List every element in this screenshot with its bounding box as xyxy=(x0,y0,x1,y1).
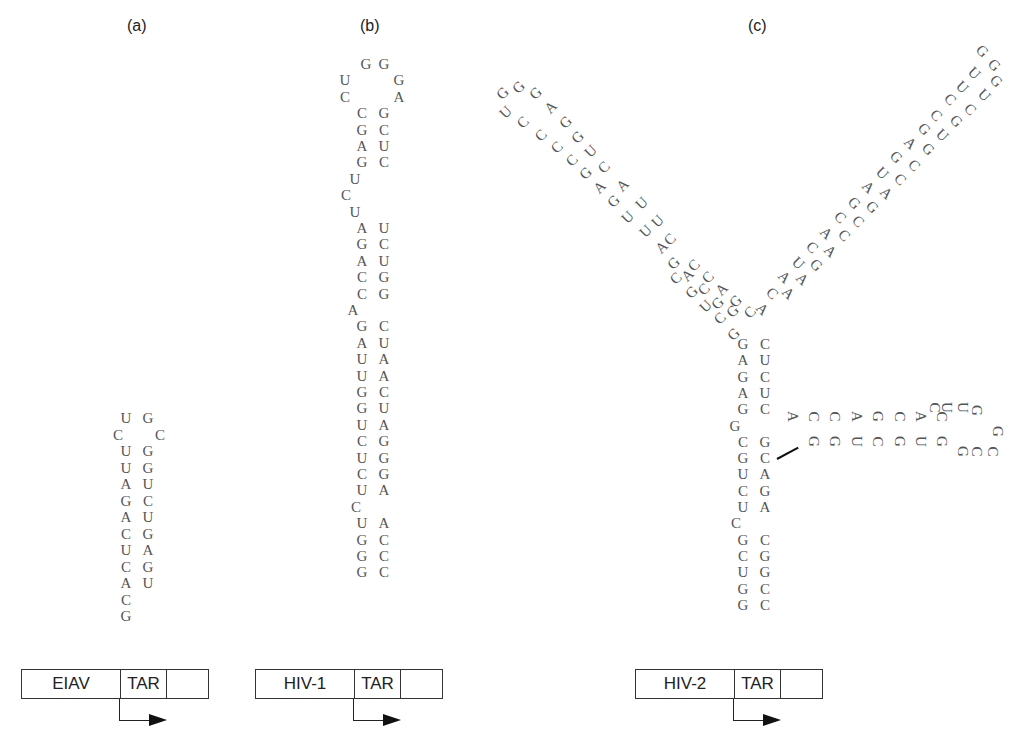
nucleotide: A xyxy=(759,467,771,482)
nucleotide: A xyxy=(356,254,368,269)
side-arm-nucleotide: G xyxy=(827,436,842,448)
gene-box-hiv-2: HIV-2TAR xyxy=(635,669,823,699)
nucleotide: C xyxy=(759,533,771,548)
left-arm-nucleotide: G xyxy=(604,192,623,211)
transcription-start-line xyxy=(733,699,734,721)
nucleotide: G xyxy=(356,123,368,138)
tar-label: TAR xyxy=(354,670,400,698)
side-arm-nucleotide: U xyxy=(849,436,864,448)
left-arm-nucleotide: C xyxy=(513,113,532,132)
right-arm-nucleotide: A xyxy=(876,184,895,203)
nucleotide: C xyxy=(120,593,132,608)
nucleotide: G xyxy=(142,411,154,426)
nucleotide: G xyxy=(142,461,154,476)
nucleotide: G xyxy=(356,533,368,548)
nucleotide: G xyxy=(759,484,771,499)
nucleotide: C xyxy=(356,434,368,449)
tar-label: TAR xyxy=(734,670,780,698)
nucleotide: G xyxy=(759,435,771,450)
nucleotide: G xyxy=(356,319,368,334)
transcription-arrow-shaft xyxy=(733,720,763,721)
panel-label-c: (c) xyxy=(748,17,767,35)
nucleotide: U xyxy=(120,411,132,426)
nucleotide: G xyxy=(759,549,771,564)
nucleotide: G xyxy=(356,401,368,416)
nucleotide: G xyxy=(759,565,771,580)
nucleotide: G xyxy=(378,270,390,285)
nucleotide: C xyxy=(120,527,132,542)
nucleotide: G xyxy=(393,73,405,88)
right-arm-nucleotide: C xyxy=(890,170,909,189)
nucleotide: C xyxy=(120,560,132,575)
downstream-segment xyxy=(400,670,442,698)
nucleotide: U xyxy=(759,386,771,401)
nucleotide: A xyxy=(378,369,390,384)
transcription-arrow-shaft xyxy=(353,720,383,721)
right-arm-nucleotide: C xyxy=(848,212,867,231)
nucleotide: A xyxy=(120,510,132,525)
nucleotide: C xyxy=(378,565,390,580)
side-arm-nucleotide: G xyxy=(955,446,970,458)
left-arm-nucleotide: A xyxy=(590,178,609,197)
side-arm-nucleotide: G xyxy=(892,436,907,448)
connector-line xyxy=(777,447,799,460)
nucleotide: G xyxy=(356,549,368,564)
left-arm-nucleotide: G xyxy=(526,84,545,103)
side-arm-nucleotide: G xyxy=(870,411,885,423)
nucleotide: A xyxy=(759,500,771,515)
nucleotide: U xyxy=(356,418,368,433)
nucleotide: A xyxy=(737,386,749,401)
side-arm-nucleotide: C xyxy=(870,436,885,448)
right-arm-nucleotide: C xyxy=(834,226,853,245)
side-arm-nucleotide: C xyxy=(985,446,1000,458)
nucleotide: A xyxy=(378,352,390,367)
nucleotide: U xyxy=(120,461,132,476)
transcription-arrow-head xyxy=(383,714,401,726)
nucleotide: G xyxy=(360,57,372,72)
nucleotide: U xyxy=(737,467,749,482)
transcription-arrow-shaft xyxy=(119,720,149,721)
nucleotide: G xyxy=(737,451,749,466)
side-arm-nucleotide: C xyxy=(827,411,842,423)
nucleotide: U xyxy=(378,336,390,351)
nucleotide: U xyxy=(378,254,390,269)
nucleotide: C xyxy=(737,435,749,450)
nucleotide: C xyxy=(759,582,771,597)
transcription-start-line xyxy=(353,699,354,721)
tar-label: TAR xyxy=(120,670,166,698)
nucleotide: C xyxy=(378,237,390,252)
nucleotide: A xyxy=(356,221,368,236)
nucleotide: G xyxy=(737,533,749,548)
left-arm-nucleotide: C xyxy=(594,158,613,177)
nucleotide: U xyxy=(142,477,154,492)
right-arm-nucleotide: A xyxy=(778,284,797,303)
side-arm-nucleotide: A xyxy=(785,411,800,423)
right-arm-nucleotide: G xyxy=(946,112,965,131)
nucleotide: C xyxy=(759,337,771,352)
left-arm-nucleotide: U xyxy=(632,194,651,213)
downstream-segment xyxy=(780,670,822,698)
right-arm-nucleotide: G xyxy=(886,148,905,167)
nucleotide: A xyxy=(378,516,390,531)
nucleotide: G xyxy=(356,155,368,170)
nucleotide: G xyxy=(729,419,741,434)
nucleotide: U xyxy=(737,565,749,580)
nucleotide: G xyxy=(356,237,368,252)
left-arm-nucleotide: U xyxy=(581,142,600,161)
right-arm-nucleotide: G xyxy=(984,56,1003,75)
gene-box-hiv-1: HIV-1TAR xyxy=(255,669,443,699)
left-arm-nucleotide: U xyxy=(618,208,637,227)
nucleotide: A xyxy=(378,418,390,433)
side-arm-nucleotide: A xyxy=(849,411,864,423)
nucleotide: U xyxy=(378,401,390,416)
right-arm-nucleotide: G xyxy=(844,194,863,213)
nucleotide: U xyxy=(737,500,749,515)
nucleotide: A xyxy=(393,90,405,105)
right-arm-nucleotide: C xyxy=(830,208,849,227)
nucleotide: C xyxy=(378,549,390,564)
left-arm-nucleotide: C xyxy=(531,126,550,145)
nucleotide: U xyxy=(356,483,368,498)
nucleotide: U xyxy=(356,369,368,384)
left-arm-nucleotide: C xyxy=(547,138,566,157)
nucleotide: G xyxy=(737,370,749,385)
